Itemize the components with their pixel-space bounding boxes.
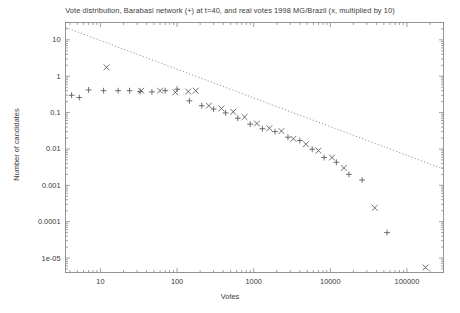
plus-marker: [149, 89, 155, 95]
data-series: [69, 64, 429, 270]
plus-marker: [127, 88, 133, 94]
y-tick-label: 0.01: [4, 144, 61, 153]
y-tick-label: 1e-05: [4, 254, 61, 263]
series-0: [69, 86, 390, 235]
plus-marker: [76, 95, 82, 101]
plus-marker: [285, 134, 291, 140]
plus-marker: [235, 115, 241, 121]
figure-root: Vote distribution, Barabasi network (+) …: [0, 0, 460, 313]
cross-marker: [329, 155, 335, 161]
cross-marker: [423, 265, 429, 271]
cross-marker: [185, 89, 191, 95]
cross-marker: [279, 128, 285, 134]
plus-marker: [199, 103, 205, 109]
x-tick-label: 100: [147, 277, 207, 286]
plus-marker: [359, 177, 365, 183]
y-tick-label: 0.001: [4, 181, 61, 190]
plus-marker: [115, 88, 121, 94]
cross-marker: [219, 106, 225, 112]
cross-marker: [254, 121, 260, 127]
plus-marker: [247, 121, 253, 127]
series-1: [104, 64, 429, 270]
cross-marker: [242, 114, 248, 120]
plus-marker: [346, 171, 352, 177]
cross-marker: [341, 165, 347, 171]
plus-marker: [162, 88, 168, 94]
cross-marker: [230, 109, 236, 115]
plus-marker: [309, 146, 315, 152]
x-tick-label: 10: [70, 277, 130, 286]
y-tick-label: 10: [4, 35, 61, 44]
y-tick-label: 0.0001: [4, 217, 61, 226]
cross-marker: [157, 88, 163, 94]
x-tick-label: 100000: [377, 277, 437, 286]
y-tick-label: 0.1: [4, 108, 61, 117]
plus-marker: [69, 92, 75, 98]
cross-marker: [266, 125, 272, 131]
cross-marker: [316, 148, 322, 154]
x-tick-label: 1000: [224, 277, 284, 286]
plot-canvas: [0, 0, 460, 313]
plus-marker: [321, 155, 327, 161]
plus-marker: [211, 106, 217, 112]
plus-marker: [297, 138, 303, 144]
plus-marker: [384, 230, 390, 236]
y-tick-label: 1: [4, 72, 61, 81]
plus-marker: [86, 87, 92, 93]
x-tick-label: 10000: [300, 277, 360, 286]
plus-marker: [272, 129, 278, 135]
plus-marker: [260, 126, 266, 132]
cross-marker: [172, 89, 178, 95]
cross-marker: [104, 64, 110, 70]
cross-marker: [138, 88, 144, 94]
plus-marker: [101, 88, 107, 94]
cross-marker: [372, 205, 378, 211]
cross-marker: [193, 88, 199, 94]
fit-line: [66, 27, 444, 169]
cross-marker: [206, 103, 212, 109]
cross-marker: [303, 141, 309, 147]
plus-marker: [187, 98, 193, 104]
cross-marker: [291, 136, 297, 142]
